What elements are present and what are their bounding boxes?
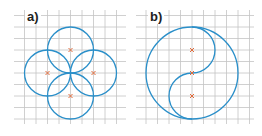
figure-b-label: b): [148, 9, 164, 24]
figure-a-label: a): [25, 9, 41, 24]
